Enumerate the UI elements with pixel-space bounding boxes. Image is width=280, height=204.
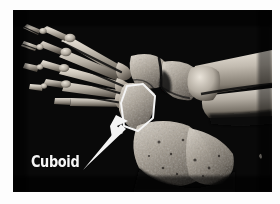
cuboid-label: Cuboid: [31, 155, 79, 170]
figure-page: Cuboid: [0, 0, 280, 204]
